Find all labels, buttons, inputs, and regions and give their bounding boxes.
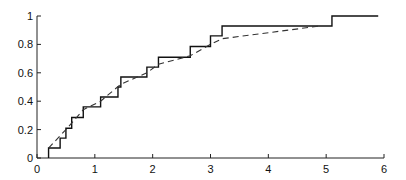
x-tick-label: 6: [381, 163, 387, 175]
chart-canvas: 012345600.20.40.60.81: [0, 0, 406, 180]
y-tick-label: 1: [27, 10, 33, 22]
y-tick-label: 0: [27, 152, 33, 164]
cdf-chart: 012345600.20.40.60.81: [0, 0, 406, 180]
y-tick-label: 0.8: [18, 38, 33, 50]
x-tick-label: 5: [323, 163, 329, 175]
y-tick-label: 0.2: [18, 124, 33, 136]
x-tick-label: 4: [265, 163, 271, 175]
x-tick-label: 2: [150, 163, 156, 175]
y-tick-label: 0.4: [18, 95, 33, 107]
y-tick-label: 0.6: [18, 67, 33, 79]
x-tick-label: 1: [92, 163, 98, 175]
x-tick-label: 0: [34, 163, 40, 175]
x-tick-label: 3: [207, 163, 213, 175]
dashed-series: [49, 26, 321, 148]
step-series: [49, 16, 379, 158]
